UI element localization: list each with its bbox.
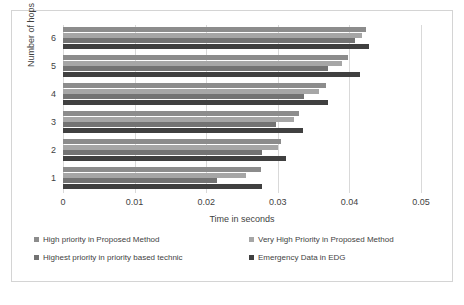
plot-area: [63, 25, 421, 193]
bar: [63, 173, 246, 178]
bar: [63, 178, 217, 183]
chart-frame: Number of hops 123456 00.010.020.030.040…: [11, 10, 453, 282]
bar: [63, 139, 281, 144]
bar-group: [63, 25, 421, 53]
bar: [63, 27, 366, 32]
bar: [63, 72, 360, 77]
bar: [63, 83, 326, 88]
bar: [63, 117, 294, 122]
bar: [63, 44, 369, 49]
legend-swatch-icon: [34, 255, 39, 260]
x-tick-label: 0.01: [115, 197, 155, 207]
x-tick-label: 0.03: [258, 197, 298, 207]
legend-item-emergency-data: Emergency Data in EDG: [249, 253, 346, 262]
legend-label: Emergency Data in EDG: [258, 253, 346, 262]
legend-label: Very High Priority in Proposed Method: [258, 235, 394, 244]
bar: [63, 156, 286, 161]
bar: [63, 184, 262, 189]
y-tick-label: 6: [42, 34, 56, 43]
legend-row-2: Highest priority in priority based techn…: [34, 253, 434, 262]
x-axis-title: Time in seconds: [63, 214, 421, 224]
legend-swatch-icon: [34, 237, 39, 242]
bar-group: [63, 109, 421, 137]
y-axis-title: Number of hops: [26, 3, 36, 67]
x-tick-label: 0.02: [186, 197, 226, 207]
chart-legend: High priority in Proposed Method Very Hi…: [34, 235, 434, 271]
legend-item-high-priority: High priority in Proposed Method: [34, 235, 249, 244]
bar: [63, 167, 261, 172]
x-tick-label: 0.05: [401, 197, 441, 207]
bar: [63, 94, 304, 99]
legend-item-very-high-priority: Very High Priority in Proposed Method: [249, 235, 394, 244]
bar: [63, 55, 348, 60]
legend-swatch-icon: [249, 255, 254, 260]
bar: [63, 150, 262, 155]
y-tick-label: 4: [42, 90, 56, 99]
bar-group: [63, 53, 421, 81]
x-tick-label: 0.04: [329, 197, 369, 207]
bar-group: [63, 137, 421, 165]
y-tick-label: 3: [42, 118, 56, 127]
bar: [63, 100, 328, 105]
legend-label: High priority in Proposed Method: [43, 235, 160, 244]
bar: [63, 61, 342, 66]
bar: [63, 145, 278, 150]
x-tick-label: 0: [43, 197, 83, 207]
bar: [63, 66, 328, 71]
bar-group: [63, 81, 421, 109]
bar: [63, 89, 319, 94]
legend-swatch-icon: [249, 237, 254, 242]
bar: [63, 33, 362, 38]
bar: [63, 122, 276, 127]
legend-item-highest-priority: Highest priority in priority based techn…: [34, 253, 249, 262]
bar-group: [63, 165, 421, 193]
bar: [63, 128, 303, 133]
legend-row-1: High priority in Proposed Method Very Hi…: [34, 235, 434, 244]
y-tick-label: 2: [42, 146, 56, 155]
y-tick-label: 1: [42, 174, 56, 183]
gridline: [421, 25, 422, 193]
bar: [63, 38, 355, 43]
legend-label: Highest priority in priority based techn…: [43, 253, 183, 262]
y-tick-label: 5: [42, 62, 56, 71]
bar: [63, 111, 299, 116]
